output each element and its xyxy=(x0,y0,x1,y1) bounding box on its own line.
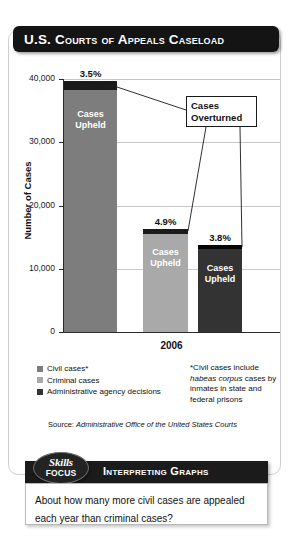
source-prefix: Source: xyxy=(48,420,76,429)
legend-item-civil: Civil cases* xyxy=(37,364,182,373)
footnote-italic-term: habeas corpus xyxy=(190,374,242,383)
skills-focus-badge-line-1: Skills xyxy=(34,456,88,468)
footnote-line-2: cases xyxy=(242,374,265,383)
page-title: U.S. Courts of Appeals Caseload xyxy=(24,32,224,47)
civil-cases-footnote: *Civil cases include habeas corpus cases… xyxy=(190,363,282,405)
skills-focus-badge: Skills FOCUS xyxy=(33,452,89,484)
skills-focus-question-box: About how many more civil cases are appe… xyxy=(25,483,268,525)
legend-swatch-criminal-icon xyxy=(37,377,43,383)
skills-focus-question: About how many more civil cases are appe… xyxy=(35,495,245,524)
source-name-line-1: Administrative Office of the xyxy=(76,420,166,429)
chart-legend: Civil cases* Criminal cases Administrati… xyxy=(37,364,182,399)
chart-title-bar: U.S. Courts of Appeals Caseload xyxy=(13,26,279,52)
legend-label-civil: Civil cases* xyxy=(47,364,88,373)
skills-focus-bar-title: Interpreting Graphs xyxy=(103,465,209,477)
source-name-line-2: United States Courts xyxy=(168,420,237,429)
skills-focus-badge-line-2: FOCUS xyxy=(34,468,88,478)
legend-label-administrative: Administrative agency decisions xyxy=(47,387,161,396)
legend-item-administrative: Administrative agency decisions xyxy=(37,387,182,396)
footnote-line-1: *Civil cases include xyxy=(190,363,259,372)
legend-swatch-administrative-icon xyxy=(37,389,43,395)
legend-label-criminal: Criminal cases xyxy=(47,376,99,385)
chart-source: Source: Administrative Office of the Uni… xyxy=(40,420,245,430)
chart-card xyxy=(8,30,281,475)
legend-item-criminal: Criminal cases xyxy=(37,376,182,385)
legend-swatch-civil-icon xyxy=(37,366,43,372)
